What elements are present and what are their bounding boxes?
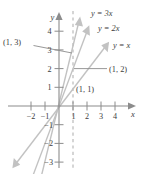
point-label-1-1: (1, 1) — [76, 85, 94, 94]
y-tick-label-3: 3 — [47, 46, 51, 55]
equation-label-y-x: y = x — [112, 41, 131, 50]
equation-label-y-3x: y = 3x — [90, 9, 113, 18]
x-axis-label: x — [130, 109, 135, 119]
point-label-1-2: (1, 2) — [109, 65, 127, 74]
line-y-x — [12, 42, 109, 169]
x-tick-label-2: 2 — [85, 112, 89, 121]
y-tick-label-neg2: −2 — [44, 139, 53, 148]
math-graph-figure: −2 −1 1 2 3 4 1 2 3 4 −1 −2 −3 x y y = 3… — [0, 0, 146, 174]
y-tick-label-neg3: −3 — [44, 158, 53, 167]
y-axis-label: y — [50, 12, 55, 22]
x-tick-label-neg1: −1 — [41, 112, 50, 121]
y-tick-label-neg1: −1 — [44, 121, 53, 130]
x-tick-label-1: 1 — [71, 112, 75, 121]
x-tick-label-neg2: −2 — [27, 112, 36, 121]
point-label-1-3: (1, 3) — [3, 38, 21, 47]
x-tick-label-4: 4 — [113, 112, 117, 121]
leader-line-point-1-3 — [34, 46, 73, 54]
x-tick-label-3: 3 — [99, 112, 103, 121]
y-tick-label-1: 1 — [47, 83, 51, 92]
y-tick-label-4: 4 — [47, 27, 51, 36]
y-tick-label-2: 2 — [47, 65, 51, 74]
x-axis — [8, 102, 136, 109]
y-axis — [55, 12, 62, 168]
equation-label-y-2x: y = 2x — [97, 24, 120, 33]
